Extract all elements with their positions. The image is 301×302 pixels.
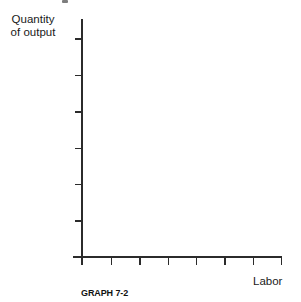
graph-caption: GRAPH 7-2	[81, 288, 128, 298]
y-axis-line	[81, 19, 83, 265]
x-tick	[196, 258, 198, 265]
y-axis-label-line1: Quantity	[2, 13, 64, 26]
y-axis-label-line2: of output	[2, 26, 64, 39]
cropped-text-artifact	[62, 0, 68, 3]
x-axis-line	[73, 256, 282, 258]
x-tick	[224, 258, 226, 265]
y-axis-label: Quantity of output	[2, 13, 64, 39]
y-tick	[75, 184, 82, 186]
x-axis-label: Labor	[253, 275, 282, 288]
y-tick	[75, 148, 82, 150]
x-tick	[139, 258, 141, 265]
y-tick	[75, 220, 82, 222]
x-tick	[111, 258, 113, 265]
x-tick	[281, 258, 283, 265]
y-tick	[75, 38, 82, 40]
graph-figure: Quantity of output Labor GRAPH 7-2	[0, 0, 301, 302]
x-tick	[253, 258, 255, 265]
x-tick	[168, 258, 170, 265]
y-tick	[75, 111, 82, 113]
y-tick	[75, 75, 82, 77]
